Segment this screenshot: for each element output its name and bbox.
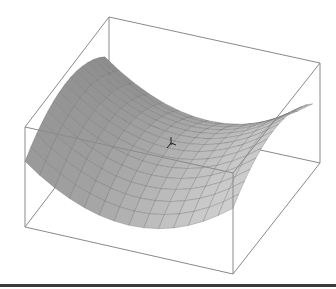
- surface-plot[interactable]: [0, 0, 336, 289]
- saddle-surface: [25, 57, 313, 229]
- bottom-divider: [0, 284, 336, 287]
